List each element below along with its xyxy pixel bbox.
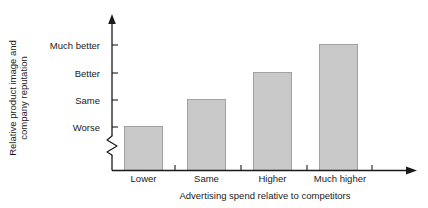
y-axis-ticks: [112, 45, 118, 127]
x-tick-label-lower: Lower: [131, 173, 157, 184]
x-tick-label-much-higher: Much higher: [314, 173, 366, 184]
y-axis-title-line1: Relative product image and: [7, 40, 18, 156]
bar-chart: Relative product image and company reput…: [0, 0, 428, 208]
bar-same: [188, 100, 226, 171]
y-axis-break-icon: [107, 136, 117, 155]
chart-figure: Relative product image and company reput…: [0, 0, 428, 208]
x-axis-tick-labels: Lower Same Higher Much higher: [131, 173, 367, 184]
bar-lower: [125, 127, 163, 171]
x-axis-arrow-icon: [406, 166, 417, 174]
x-axis-title: Advertising spend relative to competitor…: [179, 190, 350, 201]
bar-higher: [254, 73, 292, 171]
y-tick-label-better: Better: [75, 68, 100, 79]
x-tick-label-higher: Higher: [259, 173, 287, 184]
y-tick-label-much-better: Much better: [50, 40, 100, 51]
y-axis: [107, 14, 117, 171]
bar-much-higher: [320, 45, 358, 171]
y-tick-label-worse: Worse: [73, 122, 100, 133]
y-axis-tick-labels: Much better Better Same Worse: [50, 40, 100, 133]
bar-series: [125, 45, 358, 171]
y-axis-title-line2: company reputation: [18, 56, 29, 139]
y-axis-title: Relative product image and company reput…: [7, 40, 29, 156]
x-tick-label-same: Same: [194, 173, 219, 184]
y-tick-label-same: Same: [75, 95, 100, 106]
